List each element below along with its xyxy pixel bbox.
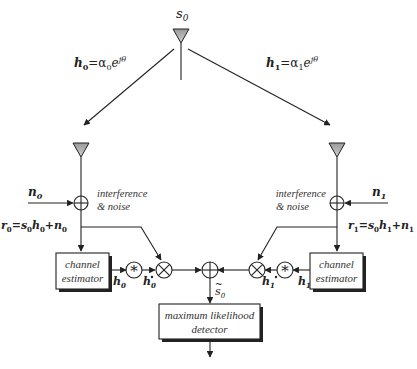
channel-label-0: h0=α0ejθ — [74, 55, 126, 72]
noise-label-1: n1 — [372, 185, 386, 201]
estimator-1-line2: estimator — [316, 272, 358, 284]
noise-label-0: n0 — [28, 185, 43, 201]
receive-branch-1: n1 interference & noise r1=s0h1+n1 chann… — [218, 143, 414, 292]
estimator-1-line1: channel — [319, 258, 354, 270]
rx-antenna-1-icon — [329, 143, 345, 157]
combiner: s0 ~ — [202, 262, 226, 303]
noise-note-0-line1: interference — [97, 188, 148, 199]
detector-line1: maximum likelihood — [165, 309, 255, 321]
conjugate-0-symbol: * — [130, 262, 138, 280]
noise-note-1-line2: & noise — [276, 201, 309, 212]
noise-note-1-line1: interference — [276, 188, 327, 199]
conjugate-1-symbol: * — [281, 262, 289, 280]
transmit-antenna: s0 — [173, 6, 189, 80]
tx-antenna-icon — [173, 29, 189, 43]
noise-note-0-line2: & noise — [97, 201, 130, 212]
h1-conj-label: h1 — [262, 275, 275, 290]
rx-antenna-0-icon — [73, 143, 89, 157]
tx-symbol-label: s0 — [176, 6, 189, 23]
channel-label-1: h1=α1ejθ — [266, 55, 318, 72]
h1-conj-dot — [275, 276, 277, 278]
diversity-combiner-diagram: s0 h0=α0ejθ h1=α1ejθ n0 interference & n… — [0, 0, 417, 369]
estimator-0-line2: estimator — [62, 272, 104, 284]
received-label-1: r1=s0h1+n1 — [348, 219, 414, 234]
received-label-0: r0=s0h0+n0 — [1, 219, 67, 234]
h0-conj-dot — [151, 276, 153, 278]
h1-estimate-label: h1 — [298, 275, 311, 290]
h0-estimate-label: h0 — [113, 275, 126, 290]
receive-branch-0: n0 interference & noise r0=s0h0+n0 chann… — [1, 143, 201, 292]
ml-detector: maximum likelihood detector — [159, 304, 263, 357]
h0-conj-label: h0 — [143, 275, 156, 290]
combined-accent: ~ — [215, 279, 223, 289]
detector-line2: detector — [191, 323, 228, 335]
estimator-0-line1: channel — [65, 258, 100, 270]
